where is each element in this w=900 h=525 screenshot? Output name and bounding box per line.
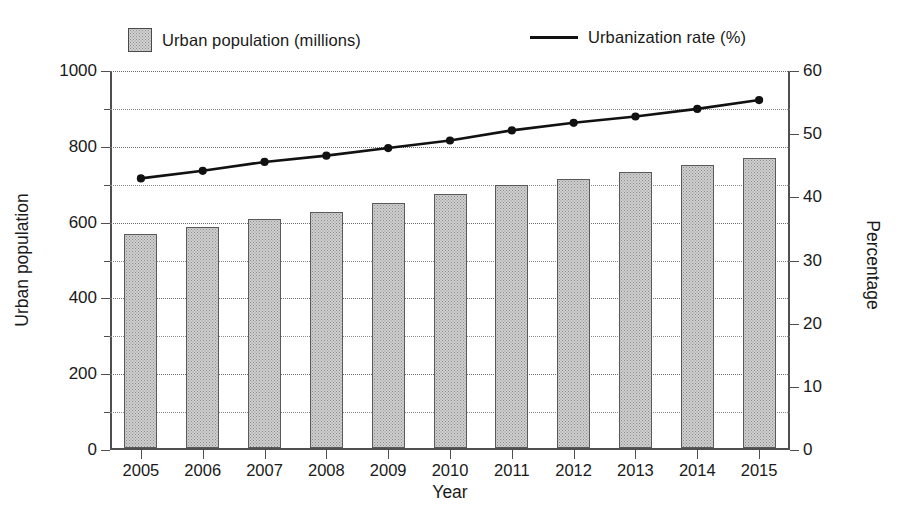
y-axis-left-tick-label: 1000 <box>59 61 97 81</box>
y-axis-left-tick <box>101 374 110 375</box>
x-axis-tick-label: 2009 <box>370 461 407 480</box>
x-axis-tick <box>388 450 389 459</box>
y-axis-right-title: Percentage <box>862 220 883 310</box>
y-axis-left-tick-label: 600 <box>69 213 97 233</box>
line-marker <box>755 96 763 104</box>
y-axis-left-tick <box>101 223 110 224</box>
plot-area: 02004006008001000 0102030405060 20052006… <box>110 71 790 450</box>
y-axis-right-tick <box>790 134 799 135</box>
x-axis-tick <box>203 450 204 459</box>
legend-item-urban-population: Urban population (millions) <box>128 28 361 52</box>
y-axis-right-tick-label: 20 <box>803 314 822 334</box>
y-axis-right-tick-label: 50 <box>803 124 822 144</box>
y-axis-left-title: Urban population <box>12 193 33 326</box>
line-marker <box>199 167 207 175</box>
x-axis-tick-label: 2005 <box>123 461 160 480</box>
x-axis-tick-label: 2013 <box>617 461 654 480</box>
y-axis-right-tick <box>790 71 799 72</box>
chart-figure: Urban population (millions) Urbanization… <box>0 0 900 525</box>
x-axis-tick-label: 2011 <box>494 461 529 480</box>
x-axis-tick-label: 2014 <box>679 461 716 480</box>
x-axis-title: Year <box>432 482 467 503</box>
y-axis-left-tick-label: 200 <box>69 364 97 384</box>
y-axis-right-tick-label: 0 <box>803 440 812 460</box>
chart-legend: Urban population (millions) Urbanization… <box>0 26 900 56</box>
x-axis-tick <box>635 450 636 459</box>
x-axis-tick-label: 2008 <box>308 461 345 480</box>
x-axis-tick-label: 2007 <box>246 461 283 480</box>
y-axis-left-tick <box>101 298 110 299</box>
line-marker <box>570 119 578 127</box>
x-axis-tick-label: 2012 <box>555 461 592 480</box>
line-marker <box>693 105 701 113</box>
x-axis-tick-label: 2015 <box>741 461 778 480</box>
y-axis-left-tick <box>101 147 110 148</box>
legend-line-icon <box>530 36 578 39</box>
x-axis-tick <box>759 450 760 459</box>
x-axis-tick <box>512 450 513 459</box>
y-axis-left-tick-label: 0 <box>88 440 97 460</box>
y-axis-left-tick-label: 400 <box>69 288 97 308</box>
y-axis-left-tick <box>101 71 110 72</box>
y-axis-right-tick-label: 30 <box>803 251 822 271</box>
y-axis-right-tick <box>790 387 799 388</box>
legend-label-urban-population: Urban population (millions) <box>162 31 361 50</box>
y-axis-right-tick-label: 40 <box>803 187 822 207</box>
y-axis-left-tick-label: 800 <box>69 137 97 157</box>
line-series <box>110 71 790 450</box>
y-axis-right-tick <box>790 261 799 262</box>
x-axis-tick <box>265 450 266 459</box>
legend-item-urbanization-rate: Urbanization rate (%) <box>530 28 746 47</box>
x-axis-tick-label: 2010 <box>432 461 469 480</box>
x-axis-tick <box>141 450 142 459</box>
line-marker <box>631 112 639 120</box>
y-axis-right-tick <box>790 197 799 198</box>
x-axis-tick-label: 2006 <box>184 461 221 480</box>
x-axis-tick <box>450 450 451 459</box>
line-marker <box>137 174 145 182</box>
y-axis-right-tick-label: 10 <box>803 377 822 397</box>
line-marker <box>322 152 330 160</box>
line-marker <box>508 126 516 134</box>
line-marker <box>260 158 268 166</box>
x-axis-tick <box>697 450 698 459</box>
y-axis-right-tick <box>790 324 799 325</box>
y-axis-left-tick <box>101 450 110 451</box>
y-axis-right-tick <box>790 450 799 451</box>
x-axis-tick <box>326 450 327 459</box>
legend-label-urbanization-rate: Urbanization rate (%) <box>588 28 746 47</box>
line-marker <box>384 144 392 152</box>
y-axis-right-tick-label: 60 <box>803 61 822 81</box>
x-axis-tick <box>574 450 575 459</box>
legend-swatch-icon <box>128 28 152 52</box>
line-marker <box>446 136 454 144</box>
